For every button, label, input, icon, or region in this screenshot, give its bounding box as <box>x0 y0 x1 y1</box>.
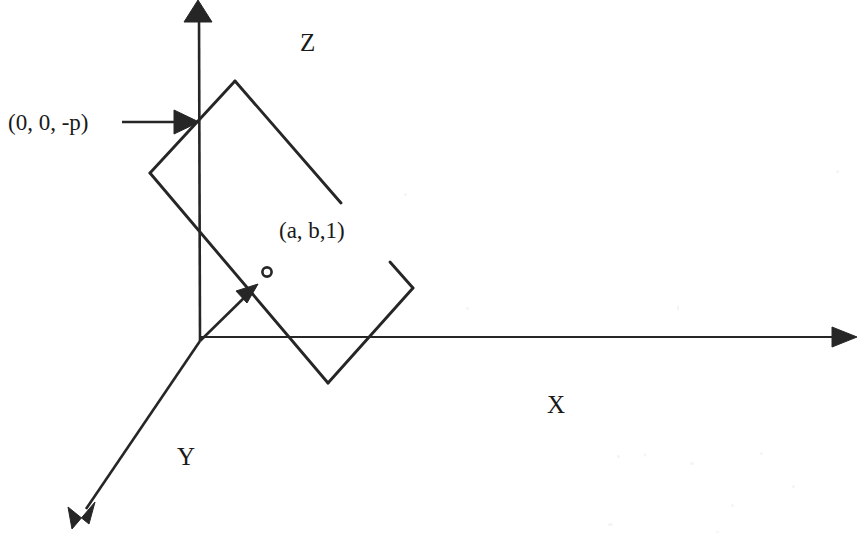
point-label-origin-offset: (0, 0, -p) <box>8 111 88 134</box>
plane-edge-right-stub <box>390 262 413 288</box>
plane-edge-top-left <box>150 81 235 173</box>
x-axis <box>200 327 857 347</box>
x-axis-label: X <box>547 392 565 417</box>
diagram-line-art <box>0 0 862 537</box>
point-label-plane-normal: (a, b,1) <box>279 219 345 242</box>
plane-edge-bottom-right <box>328 288 413 383</box>
diagram-canvas: Z X Y (0, 0, -p) (a, b,1) <box>0 0 862 537</box>
y-axis-arrowhead <box>68 502 95 529</box>
marker-circle-icon <box>262 267 271 276</box>
z-axis <box>184 0 212 341</box>
y-axis-label: Y <box>177 444 195 469</box>
y-axis <box>68 341 200 529</box>
z-axis-line <box>199 12 200 341</box>
x-axis-arrowhead <box>832 327 857 347</box>
plane-edge-left-bottom <box>150 173 328 383</box>
z-axis-label: Z <box>300 30 315 55</box>
y-axis-line <box>86 341 200 509</box>
negp-pointer-arrowhead <box>174 110 199 134</box>
z-axis-arrowhead <box>184 0 212 22</box>
normal-vector-shaft <box>200 292 250 341</box>
plane-edge-top-open <box>235 81 341 203</box>
normal-vector <box>200 284 258 341</box>
